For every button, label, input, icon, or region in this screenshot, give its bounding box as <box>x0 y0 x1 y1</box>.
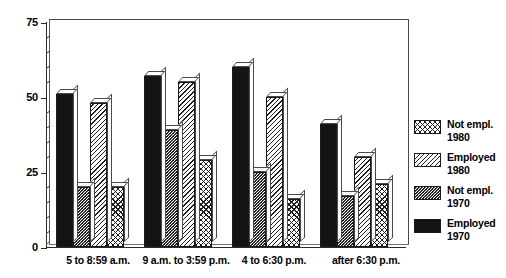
legend-label-line1: Employed <box>447 217 496 229</box>
x-axis-label: after 6:30 p.m. <box>332 254 400 266</box>
legend-label-line1: Not empl. <box>447 184 493 196</box>
x-axis-label: 5 to 8:59 a.m. <box>66 254 130 266</box>
legend-label-line1: Employed <box>447 151 496 163</box>
legend-label: Employed1970 <box>447 217 506 243</box>
legend-swatch <box>414 186 441 200</box>
legend-row: Employed1980 <box>414 151 506 183</box>
legend-label-line1: Not empl. <box>447 118 493 130</box>
bar-side-face <box>73 84 78 242</box>
y-tick-label: 50 <box>26 92 38 103</box>
legend-swatch <box>414 153 441 167</box>
bar-side-face <box>107 93 112 242</box>
bar-side-face <box>178 120 183 242</box>
bar <box>56 94 73 247</box>
legend-label-line2: 1970 <box>447 230 506 243</box>
bar <box>232 67 249 247</box>
legend-swatch <box>414 120 441 134</box>
bar-side-face <box>124 177 129 242</box>
bar-chart: 7550250 5 to 8:59 a.m.9 a.m. to 3:59 p.m… <box>0 0 506 278</box>
legend-label: Not empl.1970 <box>447 184 506 210</box>
legend-row: Employed1970 <box>414 217 506 249</box>
legend-swatch <box>414 219 441 233</box>
x-axis-label: 4 to 6:30 p.m. <box>242 254 306 266</box>
legend-label-line2: 1970 <box>447 197 506 210</box>
bar-front-face <box>56 94 73 247</box>
bar <box>144 76 161 247</box>
y-tick-label: 25 <box>26 167 38 178</box>
y-tick-label: 75 <box>26 17 38 28</box>
legend-label: Employed1980 <box>447 151 506 177</box>
bar-side-face <box>212 150 217 242</box>
bar-side-face <box>161 66 166 242</box>
bar-side-face <box>371 147 376 242</box>
bar-front-face <box>232 67 249 247</box>
bar-side-face <box>249 57 254 242</box>
bar-front-face <box>320 124 337 247</box>
y-axis: 7550250 <box>0 0 52 278</box>
bar <box>320 124 337 247</box>
chart-legend: Not empl.1980Employed1980Not empl.1970Em… <box>414 118 506 258</box>
x-axis-label: 9 a.m. to 3:59 p.m. <box>142 254 229 266</box>
frame-top-edge <box>49 19 409 20</box>
y-tick-major <box>41 248 47 249</box>
x-axis-labels: 5 to 8:59 a.m.9 a.m. to 3:59 p.m.4 to 6:… <box>46 254 416 274</box>
bar-side-face <box>266 162 271 242</box>
bar-side-face <box>90 177 95 242</box>
legend-label: Not empl.1980 <box>447 118 506 144</box>
bar-side-face <box>195 72 200 242</box>
bars-layer <box>46 22 409 248</box>
legend-label-line2: 1980 <box>447 164 506 177</box>
bar-side-face <box>388 174 393 242</box>
legend-label-line2: 1980 <box>447 131 506 144</box>
bar-side-face <box>337 114 342 242</box>
y-tick-label: 0 <box>32 242 38 253</box>
bar-side-face <box>283 87 288 242</box>
legend-row: Not empl.1980 <box>414 118 506 150</box>
bar-front-face <box>144 76 161 247</box>
legend-row: Not empl.1970 <box>414 184 506 216</box>
